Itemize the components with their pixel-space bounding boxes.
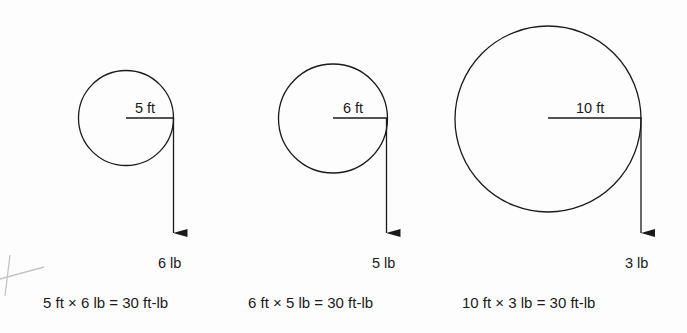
wheel-3-equation: 10 ft × 3 lb = 30 ft-lb: [462, 294, 595, 311]
wheel-2-radius-label: 6 ft: [343, 100, 363, 116]
torque-diagram: 5 ft 6 lb 5 ft × 6 lb = 30 ft-lb 6 ft 5 …: [0, 0, 687, 333]
wheel-2: 6 ft 5 lb 6 ft × 5 lb = 30 ft-lb: [248, 64, 395, 311]
wheel-1: 5 ft 6 lb 5 ft × 6 lb = 30 ft-lb: [43, 71, 181, 312]
wheel-2-force-label: 5 lb: [372, 255, 395, 271]
wheel-3-force-label: 3 lb: [625, 255, 648, 271]
wheel-1-radius-label: 5 ft: [135, 100, 155, 116]
wheel-3-radius-label: 10 ft: [576, 100, 604, 116]
wheel-1-force-label: 6 lb: [158, 255, 181, 271]
wheel-1-equation: 5 ft × 6 lb = 30 ft-lb: [43, 294, 168, 311]
wheel-3-circle: [455, 26, 641, 212]
wheel-2-equation: 6 ft × 5 lb = 30 ft-lb: [248, 294, 373, 311]
diagram-canvas: 5 ft 6 lb 5 ft × 6 lb = 30 ft-lb 6 ft 5 …: [0, 0, 687, 333]
wheel-3: 10 ft 3 lb 10 ft × 3 lb = 30 ft-lb: [455, 26, 648, 311]
pencil-cross-mark: [0, 255, 44, 296]
